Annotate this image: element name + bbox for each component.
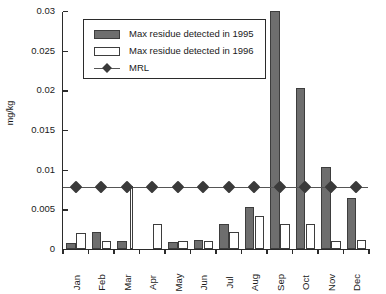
- bar-dec-1996: [357, 240, 367, 249]
- diamond-marker-icon: [69, 180, 82, 193]
- bar-feb-1995: [92, 232, 102, 249]
- bar-jul-1996: [229, 232, 239, 249]
- bar-nov-1996: [331, 241, 341, 249]
- diamond-marker-icon: [95, 180, 108, 193]
- x-tick-mark: [113, 249, 114, 254]
- x-tick-label: Nov: [325, 263, 336, 294]
- y-tick-label: 0.015: [31, 124, 55, 135]
- x-tick-label: Sep: [274, 263, 285, 294]
- bar-oct-1996: [306, 224, 316, 249]
- x-tick-label: Jan: [70, 263, 81, 294]
- legend-label-1996: Max residue detected in 1996: [129, 46, 254, 56]
- y-tick-mark: [63, 51, 68, 52]
- legend-item-1995: Max residue detected in 1995: [94, 26, 265, 42]
- bar-aug-1995: [245, 207, 255, 249]
- y-tick-label: 0.005: [31, 203, 55, 214]
- diamond-marker-icon: [197, 180, 210, 193]
- x-tick-mark: [317, 249, 318, 254]
- bar-may-1995: [168, 242, 178, 249]
- y-tick-label: 0: [50, 243, 55, 254]
- diamond-marker-icon: [102, 63, 112, 73]
- y-tick-mark: [63, 249, 68, 250]
- y-tick-label: 0.025: [31, 45, 55, 56]
- legend-swatch-1996: [94, 47, 120, 56]
- bar-jun-1995: [194, 240, 204, 249]
- x-tick-label: May: [172, 263, 183, 294]
- y-tick-mark: [63, 209, 68, 210]
- bar-oct-1995: [296, 88, 306, 249]
- x-tick-mark: [164, 249, 165, 254]
- bar-dec-1995: [347, 198, 357, 249]
- bar-may-1996: [178, 241, 188, 249]
- x-tick-label: Jun: [198, 263, 209, 294]
- y-tick-mark: [63, 130, 68, 131]
- y-tick-mark: [63, 170, 68, 171]
- legend-swatch-mrl: [94, 63, 120, 73]
- bar-jan-1995: [66, 243, 76, 249]
- x-tick-label: Feb: [96, 263, 107, 294]
- diamond-marker-icon: [350, 180, 363, 193]
- x-tick-label: Mar: [121, 263, 132, 294]
- x-tick-label: Dec: [351, 263, 362, 294]
- x-tick-mark: [62, 249, 63, 254]
- x-tick-label: Aug: [249, 263, 260, 294]
- y-tick-mark: [63, 90, 68, 91]
- x-tick-mark: [215, 249, 216, 254]
- bar-mar-1996: [130, 186, 132, 249]
- y-tick-mark: [63, 11, 68, 12]
- x-tick-mark: [292, 249, 293, 254]
- diamond-marker-icon: [146, 180, 159, 193]
- x-tick-mark: [190, 249, 191, 254]
- bar-jul-1995: [219, 224, 229, 249]
- x-tick-label: Oct: [300, 263, 311, 294]
- bar-jun-1996: [204, 241, 214, 249]
- y-tick-label: 0.03: [37, 5, 56, 16]
- bar-mar-1995: [117, 241, 127, 249]
- x-tick-mark: [88, 249, 89, 254]
- legend: Max residue detected in 1995 Max residue…: [83, 19, 266, 79]
- y-axis-title: mg/kg: [5, 85, 15, 141]
- residue-bar-chart: mg/kg 00.0050.010.0150.020.0250.03 JanFe…: [0, 0, 386, 294]
- bar-jan-1996: [76, 233, 86, 249]
- x-tick-label: Apr: [147, 263, 158, 294]
- legend-item-1996: Max residue detected in 1996: [94, 43, 265, 59]
- y-tick-label: 0.02: [37, 84, 56, 95]
- legend-swatch-1995: [94, 30, 120, 39]
- x-tick-mark: [368, 249, 369, 254]
- bar-sep-1995: [270, 11, 280, 249]
- legend-label-mrl: MRL: [129, 63, 149, 73]
- x-tick-label: Jul: [223, 263, 234, 294]
- mrl-line: [63, 187, 368, 188]
- bar-apr-1996: [153, 224, 163, 249]
- x-tick-mark: [266, 249, 267, 254]
- x-tick-mark: [139, 249, 140, 254]
- y-tick-label: 0.01: [37, 164, 56, 175]
- x-tick-mark: [343, 249, 344, 254]
- diamond-marker-icon: [222, 180, 235, 193]
- bar-sep-1996: [280, 224, 290, 249]
- legend-label-1995: Max residue detected in 1995: [129, 29, 254, 39]
- diamond-marker-icon: [171, 180, 184, 193]
- bar-feb-1996: [102, 241, 112, 249]
- x-tick-mark: [241, 249, 242, 254]
- legend-item-mrl: MRL: [94, 60, 265, 76]
- bar-aug-1996: [255, 216, 265, 249]
- diamond-marker-icon: [248, 180, 261, 193]
- bar-nov-1995: [321, 167, 331, 250]
